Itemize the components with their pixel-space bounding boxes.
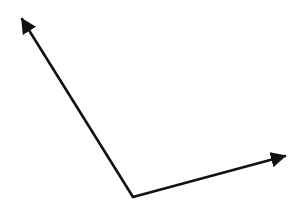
left-up-vector-arrow [22, 19, 133, 197]
right-vector-arrow [133, 156, 285, 197]
vector-diagram [0, 0, 305, 216]
